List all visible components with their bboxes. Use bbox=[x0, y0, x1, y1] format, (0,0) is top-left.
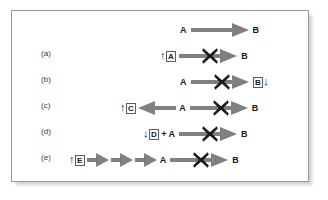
blocked-arrow-e bbox=[170, 152, 228, 168]
left-block-arrow-icon bbox=[138, 100, 176, 116]
species-product-c: B bbox=[252, 104, 259, 113]
boxed-species-c: C bbox=[126, 103, 137, 114]
chain-arrow-2-icon bbox=[111, 152, 133, 168]
diagram-row-reference: A B bbox=[12, 19, 308, 41]
boxed-species-e: E bbox=[75, 155, 85, 166]
species-product: B bbox=[253, 26, 260, 35]
row-label-b: (b) bbox=[41, 75, 51, 84]
up-arrow-icon-c: ↑ bbox=[120, 103, 126, 112]
species-product-e: B bbox=[232, 156, 239, 165]
boxed-species-a: A bbox=[166, 51, 177, 62]
blocked-arrow-d bbox=[179, 126, 237, 142]
boxed-species-d: D bbox=[149, 129, 160, 140]
down-arrow-icon-b: ↓ bbox=[263, 77, 269, 86]
cross-icon-c bbox=[212, 99, 230, 117]
diagram-row-a: (a) ↑ A B bbox=[12, 45, 308, 67]
reaction-expression-e: ↑ E A bbox=[69, 149, 239, 171]
reaction-expression-c: ↑ C A bbox=[120, 97, 258, 119]
species-reactant-d: A bbox=[169, 130, 176, 139]
reaction-expression-reference: A B bbox=[180, 19, 259, 41]
blocked-arrow-a bbox=[179, 48, 237, 64]
species-reactant: A bbox=[180, 26, 187, 35]
species-reactant-b: A bbox=[180, 78, 187, 87]
blocked-arrow-c bbox=[190, 100, 248, 116]
cross-icon-a bbox=[201, 47, 219, 65]
chain-arrow-1-icon bbox=[87, 152, 109, 168]
row-label-e: (e) bbox=[41, 153, 51, 162]
cross-icon-b bbox=[213, 73, 231, 91]
blocked-arrow-b bbox=[191, 74, 249, 90]
reaction-expression-d: ↓ D + A B bbox=[143, 123, 248, 145]
species-product-d: B bbox=[241, 130, 248, 139]
right-block-arrow-icon bbox=[191, 22, 249, 38]
row-label-a: (a) bbox=[41, 49, 51, 58]
reaction-expression-b: A B ↓ bbox=[180, 71, 269, 93]
reaction-expression-a: ↑ A B bbox=[160, 45, 248, 67]
cross-icon-d bbox=[201, 125, 219, 143]
diagram-row-c: (c) ↑ C A bbox=[12, 97, 308, 119]
species-product-a: B bbox=[241, 52, 248, 61]
up-arrow-icon-a: ↑ bbox=[160, 51, 166, 60]
chain-arrow-3-icon bbox=[135, 152, 157, 168]
plus-operator-d: + bbox=[159, 129, 168, 139]
diagram-row-b: (b) A B ↓ bbox=[12, 71, 308, 93]
cross-icon-e bbox=[192, 151, 210, 169]
figure-frame: A B (a) ↑ A bbox=[11, 10, 309, 182]
diagram-row-d: (d) ↓ D + A B bbox=[12, 123, 308, 145]
species-reactant-c: A bbox=[179, 104, 186, 113]
row-label-d: (d) bbox=[41, 127, 51, 136]
row-label-c: (c) bbox=[41, 101, 51, 110]
boxed-species-b: B bbox=[253, 77, 264, 88]
up-arrow-icon-e: ↑ bbox=[69, 155, 75, 164]
species-reactant-e: A bbox=[160, 156, 167, 165]
down-arrow-icon-d: ↓ bbox=[143, 129, 149, 138]
diagram-row-e: (e) ↑ E A bbox=[12, 149, 308, 171]
